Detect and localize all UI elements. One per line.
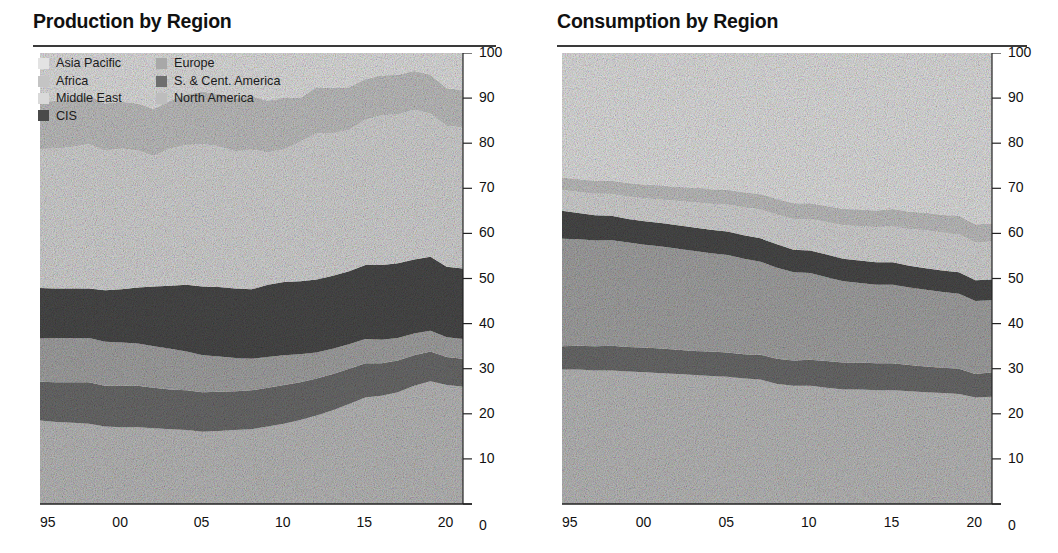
x-axis-tick-label: 05 bbox=[718, 514, 734, 530]
legend-swatch-europe bbox=[156, 58, 167, 69]
legend-label-europe: Europe bbox=[174, 57, 215, 70]
y-axis-tick-label: 90 bbox=[479, 89, 495, 105]
y-axis-tick-label: 90 bbox=[1008, 89, 1024, 105]
legend-item-asia-pacific[interactable]: Asia Pacific bbox=[38, 55, 156, 72]
y-axis-tick-label: 70 bbox=[479, 179, 495, 195]
x-axis-tick-label: 10 bbox=[275, 514, 291, 530]
y-axis-tick-label: 20 bbox=[479, 405, 495, 421]
legend-label-s-cent-america: S. & Cent. America bbox=[174, 75, 280, 88]
legend-label-asia-pacific: Asia Pacific bbox=[56, 57, 121, 70]
y-axis-tick-label: 50 bbox=[1008, 270, 1024, 286]
page-title-production: Production by Region bbox=[33, 10, 232, 33]
legend-swatch-cis bbox=[38, 110, 49, 121]
legend-label-north-america: North America bbox=[174, 92, 254, 105]
title-rule-production bbox=[33, 45, 496, 47]
y-axis-tick-label: 20 bbox=[1008, 405, 1024, 421]
x-axis-tick-label: 05 bbox=[194, 514, 210, 530]
legend-swatch-asia-pacific bbox=[38, 58, 49, 69]
x-axis-tick-label: 10 bbox=[801, 514, 817, 530]
x-axis-tick-label: 20 bbox=[438, 514, 454, 530]
y-axis-tick-label: 80 bbox=[1008, 134, 1024, 150]
legend-label-middle-east: Middle East bbox=[56, 92, 122, 105]
y-axis-tick-label: 50 bbox=[479, 270, 495, 286]
x-axis-tick-label: 15 bbox=[356, 514, 372, 530]
y-axis-tick-label: 40 bbox=[479, 315, 495, 331]
legend-production: Asia Pacific Europe Africa S. & Cent. Am… bbox=[38, 55, 328, 125]
legend-item-africa[interactable]: Africa bbox=[38, 72, 156, 89]
y-axis-tick-label: 0 bbox=[1008, 517, 1016, 533]
figure-root: Production by Region Asia Pacific Europe… bbox=[0, 0, 1058, 553]
y-axis-tick-label: 40 bbox=[1008, 315, 1024, 331]
y-axis-tick-label: 60 bbox=[479, 224, 495, 240]
plot-area-consumption: 1009080706050403020100950005101520 bbox=[562, 53, 1058, 550]
y-axis-tick-label: 100 bbox=[1008, 44, 1031, 60]
y-axis-tick-label: 30 bbox=[1008, 360, 1024, 376]
chart-panel-production: Production by Region Asia Pacific Europe… bbox=[0, 0, 529, 553]
y-axis-tick-label: 10 bbox=[479, 450, 495, 466]
legend-swatch-s-cent-america bbox=[156, 76, 167, 87]
legend-label-cis: CIS bbox=[56, 110, 77, 123]
y-axis-tick-label: 100 bbox=[479, 44, 502, 60]
chart-panel-consumption: Consumption by Region 100908070605040302… bbox=[529, 0, 1058, 553]
y-axis-tick-label: 60 bbox=[1008, 224, 1024, 240]
x-axis-tick-label: 95 bbox=[562, 514, 578, 530]
title-rule-consumption bbox=[557, 45, 1027, 47]
y-axis-tick-label: 0 bbox=[479, 517, 487, 533]
x-axis-tick-label: 20 bbox=[966, 514, 982, 530]
x-axis-tick-label: 15 bbox=[884, 514, 900, 530]
legend-item-s-cent-america[interactable]: S. & Cent. America bbox=[156, 72, 328, 89]
legend-item-cis[interactable]: CIS bbox=[38, 107, 156, 124]
y-axis-tick-label: 10 bbox=[1008, 450, 1024, 466]
legend-spacer bbox=[156, 107, 328, 124]
legend-swatch-middle-east bbox=[38, 93, 49, 104]
plot-area-production: 1009080706050403020100950005101520 bbox=[40, 53, 529, 550]
legend-label-africa: Africa bbox=[56, 75, 88, 88]
x-axis-tick-label: 95 bbox=[40, 514, 56, 530]
x-axis-tick-label: 00 bbox=[636, 514, 652, 530]
y-axis-tick-label: 70 bbox=[1008, 179, 1024, 195]
legend-item-north-america[interactable]: North America bbox=[156, 90, 328, 107]
legend-swatch-africa bbox=[38, 76, 49, 87]
legend-item-middle-east[interactable]: Middle East bbox=[38, 90, 156, 107]
legend-item-europe[interactable]: Europe bbox=[156, 55, 328, 72]
y-axis-tick-label: 80 bbox=[479, 134, 495, 150]
legend-swatch-north-america bbox=[156, 93, 167, 104]
page-title-consumption: Consumption by Region bbox=[557, 10, 778, 33]
y-axis-tick-label: 30 bbox=[479, 360, 495, 376]
x-axis-tick-label: 00 bbox=[112, 514, 128, 530]
